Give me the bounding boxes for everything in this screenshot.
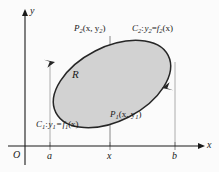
y-axis-arrowhead [22, 9, 28, 16]
c1-arg: (x) [68, 119, 79, 129]
tick-label-a: a [47, 151, 52, 161]
p1-args: (x, y [119, 109, 136, 119]
p1-close: ) [138, 109, 141, 119]
point-label-P2: P2(x, y2) [74, 24, 105, 34]
tick-label-b: b [172, 151, 177, 161]
curve-label-C1: C1: y1 = f1(x) [36, 120, 79, 130]
c1-y-subscript: 1 [53, 123, 56, 130]
x-axis-line [8, 143, 205, 149]
x-axis-arrowhead [198, 143, 205, 149]
orientation-arrow-upper-left [41, 56, 55, 69]
c1-equals: = [57, 119, 62, 129]
origin-label: O [13, 150, 20, 160]
point-label-P1: P1(x, y1) [110, 110, 141, 120]
c2-arg: (x) [163, 23, 174, 33]
curve-label-C2: C2: y2=f2(x) [132, 24, 173, 34]
p2-args: (x, y [83, 23, 100, 33]
c2-colon: : [141, 23, 144, 33]
region-label-R: R [72, 69, 79, 80]
y-axis-line [22, 9, 28, 165]
y-axis-label: y [30, 6, 34, 16]
x-axis-label: x [207, 140, 211, 150]
figure-container: y x O a x b R P2(x, y2) P1(x, y1) C1: y1… [0, 0, 219, 172]
diagram-canvas [0, 0, 219, 172]
tick-label-x: x [107, 151, 111, 161]
p2-close: ) [102, 23, 105, 33]
c1-colon: : [45, 119, 48, 129]
